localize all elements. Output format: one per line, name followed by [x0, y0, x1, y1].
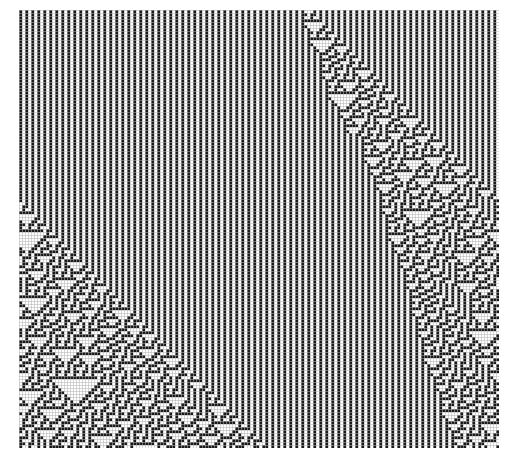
cellular-automaton-image: [19, 10, 499, 448]
figure-root: [0, 0, 516, 464]
figure-caption: [18, 453, 198, 462]
